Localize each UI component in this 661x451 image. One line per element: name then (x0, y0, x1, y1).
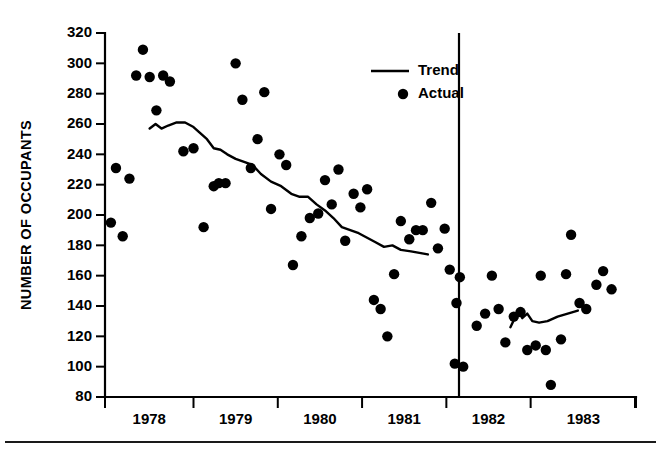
y-tick-label-240: 240 (67, 145, 92, 162)
actual-data-point (281, 160, 291, 170)
x-tick-label-1980: 1980 (303, 410, 336, 427)
actual-data-point (274, 149, 284, 159)
y-tick-label-140: 140 (67, 296, 92, 313)
actual-data-point (591, 280, 601, 290)
actual-data-point (598, 266, 608, 276)
actual-data-point (296, 231, 306, 241)
trend-line-series (150, 122, 578, 327)
axes (105, 33, 636, 408)
actual-data-point (144, 72, 154, 82)
x-tick-label-1981: 1981 (388, 410, 421, 427)
actual-data-point (418, 225, 428, 235)
actual-data-point (111, 163, 121, 173)
actual-data-point (439, 223, 449, 233)
y-tick-label-220: 220 (67, 175, 92, 192)
actual-data-point (198, 222, 208, 232)
legend-actual-label: Actual (418, 84, 464, 101)
actual-data-point (561, 269, 571, 279)
actual-data-point (566, 230, 576, 240)
actual-data-point (500, 337, 510, 347)
actual-data-point (333, 164, 343, 174)
x-tick-label-1978: 1978 (133, 410, 166, 427)
actual-data-point (451, 298, 461, 308)
actual-data-point (536, 270, 546, 280)
actual-data-point (259, 87, 269, 97)
actual-data-point (493, 304, 503, 314)
actual-data-point (556, 334, 566, 344)
actual-data-point (124, 173, 134, 183)
actual-data-point (375, 304, 385, 314)
actual-data-point (546, 380, 556, 390)
actual-data-point (288, 260, 298, 270)
occupants-scatter-chart: 80100120140160180200220240260280300320 1… (0, 0, 661, 451)
actual-data-point (389, 269, 399, 279)
legend-actual-dot-icon (398, 89, 408, 99)
actual-data-point (106, 217, 116, 227)
actual-data-point (131, 70, 141, 80)
actual-data-point (541, 345, 551, 355)
actual-data-point (480, 308, 490, 318)
actual-data-point (531, 340, 541, 350)
actual-data-point (237, 95, 247, 105)
actual-data-point (369, 295, 379, 305)
actual-data-point (178, 146, 188, 156)
y-tick-label-200: 200 (67, 205, 92, 222)
actual-data-point (118, 231, 128, 241)
x-tick-label-1982: 1982 (472, 410, 505, 427)
y-tick-label-320: 320 (67, 23, 92, 40)
actual-data-point (246, 163, 256, 173)
y-tick-label-120: 120 (67, 327, 92, 344)
actual-data-point (340, 236, 350, 246)
actual-data-point (455, 272, 465, 282)
actual-data-point (581, 304, 591, 314)
actual-data-point (487, 270, 497, 280)
actual-data-point (327, 199, 337, 209)
actual-data-point (404, 234, 414, 244)
actual-data-point (313, 208, 323, 218)
figure-container: 80100120140160180200220240260280300320 1… (0, 0, 661, 451)
footer-divider-rule (5, 441, 656, 443)
actual-data-point (472, 321, 482, 331)
actual-data-point (266, 204, 276, 214)
y-tick-label-80: 80 (75, 387, 92, 404)
actual-data-point (151, 105, 161, 115)
actual-data-point (396, 216, 406, 226)
actual-data-point (138, 44, 148, 54)
legend-trend-label: Trend (418, 61, 459, 78)
y-axis-ticks: 80100120140160180200220240260280300320 (67, 23, 105, 404)
x-tick-label-1983: 1983 (567, 410, 600, 427)
y-tick-label-180: 180 (67, 236, 92, 253)
actual-data-point (433, 243, 443, 253)
actual-data-point (606, 284, 616, 294)
y-tick-label-280: 280 (67, 84, 92, 101)
actual-data-point (515, 307, 525, 317)
x-axis-ticks: 197819791980198119821983 (105, 397, 636, 427)
actual-data-point (165, 76, 175, 86)
actual-data-point (445, 264, 455, 274)
actual-data-point (426, 198, 436, 208)
actual-data-point (320, 175, 330, 185)
actual-points-series (106, 44, 617, 390)
y-tick-label-160: 160 (67, 266, 92, 283)
actual-data-point (362, 184, 372, 194)
actual-data-point (458, 361, 468, 371)
actual-data-point (355, 202, 365, 212)
actual-data-point (230, 58, 240, 68)
y-tick-label-300: 300 (67, 54, 92, 71)
actual-data-point (220, 178, 230, 188)
actual-data-point (188, 143, 198, 153)
chart-legend: Trend Actual (371, 61, 464, 101)
actual-data-point (252, 134, 262, 144)
actual-data-point (382, 331, 392, 341)
x-tick-label-1979: 1979 (219, 410, 252, 427)
actual-data-point (348, 189, 358, 199)
trend-line-segment-0 (150, 122, 428, 254)
y-tick-label-260: 260 (67, 114, 92, 131)
y-tick-label-100: 100 (67, 357, 92, 374)
y-axis-title: NUMBER OF OCCUPANTS (18, 120, 34, 310)
